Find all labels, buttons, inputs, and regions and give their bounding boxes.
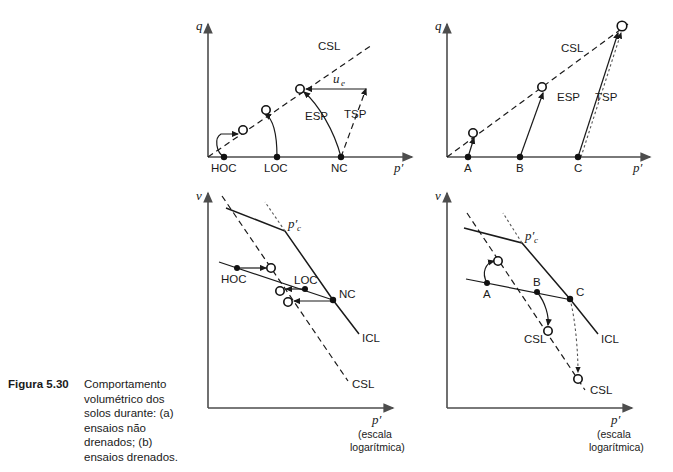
start-point-loc-a bbox=[274, 154, 280, 160]
logp-scale-line2-b: logarítmica) bbox=[589, 441, 644, 453]
v-axis-label-a: v bbox=[196, 188, 202, 203]
end-state-c-b-bottom bbox=[574, 375, 582, 383]
v-axis-label-b: v bbox=[435, 188, 441, 203]
p-axis-label-b: p′ bbox=[632, 160, 643, 175]
start-point-c-b-bottom bbox=[567, 296, 573, 302]
end-state-a-b-bottom bbox=[494, 257, 502, 265]
ue-label-a: u bbox=[333, 71, 340, 86]
pc-label-a: p′ bbox=[287, 216, 298, 231]
end-state-hoc-a bbox=[239, 126, 247, 134]
start-point-loc-a-bottom bbox=[302, 286, 308, 292]
logp-scale-line2-a: logarítmica) bbox=[350, 441, 405, 453]
point-label-b-b: B bbox=[516, 162, 524, 174]
figure-5-30: q p′ CSL TSP ESP u e HOC LOC NC bbox=[0, 0, 673, 472]
figure-caption-number: Figura 5.30 bbox=[8, 377, 82, 392]
icl-label-a-bottom: ICL bbox=[362, 332, 381, 344]
hoc-path-a bbox=[217, 134, 238, 157]
start-point-b-b-bottom bbox=[534, 289, 540, 295]
esp-path-a bbox=[304, 92, 341, 157]
end-state-loc-a bbox=[262, 106, 270, 114]
icl-label-b-bottom: ICL bbox=[601, 333, 620, 345]
tsp-label-b: TSP bbox=[595, 91, 618, 103]
point-label-loc-a: LOC bbox=[264, 162, 288, 174]
end-state-b-b bbox=[538, 83, 546, 91]
esp-label-a: ESP bbox=[305, 110, 328, 122]
logp-axis-label-b: p′ bbox=[610, 412, 621, 427]
end-state-a-b bbox=[469, 129, 477, 137]
start-point-nc-a bbox=[338, 154, 344, 160]
logp-scale-line1-b: (escala bbox=[597, 428, 631, 440]
point-label-hoc-a-bottom: HOC bbox=[221, 273, 247, 285]
csl-label-a-bottom: CSL bbox=[352, 378, 375, 390]
logp-scale-line1-a: (escala bbox=[358, 428, 392, 440]
panel-b-top-group: q p′ CSL ESP TSP A B C bbox=[435, 18, 650, 175]
end-state-nc-a-bottom bbox=[284, 298, 292, 306]
b-arrow-b-bottom bbox=[537, 292, 548, 325]
pc-label-b: p′ bbox=[524, 228, 535, 243]
point-label-a-b-bottom: A bbox=[483, 288, 491, 300]
c-arrow-b-bottom bbox=[570, 299, 578, 372]
pc-subscript-a: c bbox=[297, 223, 301, 233]
point-label-c-b: C bbox=[574, 162, 582, 174]
tsp-label-a: TSP bbox=[344, 108, 367, 120]
esp-label-b: ESP bbox=[557, 91, 580, 103]
panel-b-bottom-group: v p′ (escala logarítmica) ICL p′ c CSL C… bbox=[435, 188, 644, 453]
a-arrow-b-bottom bbox=[484, 261, 494, 283]
start-point-c-b bbox=[575, 154, 581, 160]
esp-path-b-point-b bbox=[520, 93, 543, 157]
panel-a-bottom-group: v p′ (escala logarítmica) ICL p′ c CSL H… bbox=[196, 188, 405, 453]
start-point-a-b-bottom bbox=[484, 280, 490, 286]
p-axis-label-a: p′ bbox=[393, 160, 404, 175]
q-axis-label-a: q bbox=[196, 18, 203, 33]
logp-axis-label-a: p′ bbox=[371, 412, 382, 427]
csl-line-a-top bbox=[208, 45, 372, 157]
start-point-hoc-a-bottom bbox=[234, 265, 240, 271]
point-label-c-b-bottom: C bbox=[576, 286, 584, 298]
tsp-path-a bbox=[341, 89, 366, 157]
end-state-nc-a bbox=[296, 85, 304, 93]
end-state-b-b-bottom bbox=[544, 327, 552, 335]
csl-line-a-bottom bbox=[222, 196, 348, 381]
q-axis-label-b: q bbox=[435, 18, 442, 33]
point-label-nc-a-bottom: NC bbox=[339, 288, 356, 300]
start-point-a-b bbox=[465, 154, 471, 160]
point-label-loc-a-bottom: LOC bbox=[294, 274, 318, 286]
end-state-c-b bbox=[617, 21, 627, 31]
icl-line-b-bottom bbox=[464, 228, 598, 334]
end-state-hoc-a-bottom bbox=[267, 264, 275, 272]
figure-caption-text: Comportamento volumétrico dos solos dura… bbox=[84, 377, 194, 464]
point-label-b-b-bottom: B bbox=[533, 276, 541, 288]
point-label-hoc-a: HOC bbox=[211, 162, 237, 174]
start-point-b-b bbox=[517, 154, 523, 160]
csl-label-b-top: CSL bbox=[561, 42, 584, 54]
csl-label-b-upper: CSL bbox=[524, 333, 547, 345]
csl-label-b-lower: CSL bbox=[590, 384, 613, 396]
point-label-nc-a: NC bbox=[331, 162, 348, 174]
csl-label-a-top: CSL bbox=[318, 40, 341, 52]
pc-subscript-b: c bbox=[534, 235, 538, 245]
ue-subscript-a: e bbox=[341, 78, 345, 88]
end-state-loc-a-bottom bbox=[276, 287, 284, 295]
panel-a-top-group: q p′ CSL TSP ESP u e HOC LOC NC bbox=[196, 18, 412, 175]
start-point-nc-a-bottom bbox=[330, 297, 336, 303]
start-point-hoc-a bbox=[221, 154, 227, 160]
point-label-a-b: A bbox=[464, 162, 472, 174]
loc-path-a bbox=[265, 114, 277, 157]
